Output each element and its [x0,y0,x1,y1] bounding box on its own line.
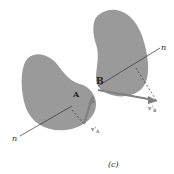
label-n-left: n [12,134,17,143]
collision-diagram: n n A B v'A v'B (c) [0,0,174,174]
figure-caption: (c) [108,160,119,169]
velocity-arrowhead-B [148,96,158,104]
label-velocity-B: v'B [147,104,157,113]
label-n-right: n [161,43,166,52]
label-velocity-A: v'A [90,125,100,134]
label-point-A: A [72,89,80,99]
label-point-B: B [96,76,104,86]
